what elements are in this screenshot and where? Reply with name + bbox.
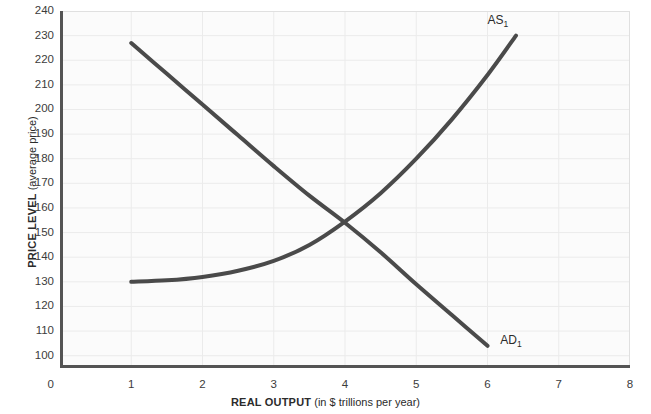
plot-area <box>60 11 630 368</box>
y-tick-label: 120 <box>14 299 54 311</box>
x-tick-label: 2 <box>183 378 223 390</box>
x-tick-label: 1 <box>111 378 151 390</box>
plot-svg <box>60 11 630 368</box>
curve-label-subscript: 1 <box>504 19 509 29</box>
y-axis-title-main: PRICE LEVEL <box>26 193 38 267</box>
y-tick-label: 220 <box>14 53 54 65</box>
origin-label: 0 <box>14 378 54 390</box>
as-ad-chart: 1001101201301401501601701801902002102202… <box>0 0 651 414</box>
x-tick-label: 8 <box>610 378 650 390</box>
curve-label-as1: AS1 <box>488 13 509 29</box>
y-tick-label: 240 <box>14 4 54 16</box>
x-axis-title-main: REAL OUTPUT <box>231 396 311 408</box>
x-tick-label: 6 <box>468 378 508 390</box>
y-axis-title: PRICE LEVEL (average price) <box>26 97 38 287</box>
x-tick-label: 7 <box>539 378 579 390</box>
x-tick-label: 5 <box>396 378 436 390</box>
y-axis-title-sub: (average price) <box>26 116 38 190</box>
curve-label-text: AD <box>500 333 517 347</box>
x-tick-label: 4 <box>325 378 365 390</box>
curve-label-ad1: AD1 <box>500 333 521 349</box>
y-tick-label: 100 <box>14 349 54 361</box>
curve-ad1 <box>131 43 487 346</box>
y-tick-label: 230 <box>14 29 54 41</box>
curve-label-subscript: 1 <box>517 339 522 349</box>
y-tick-label: 210 <box>14 78 54 90</box>
curve-label-text: AS <box>488 13 504 27</box>
y-tick-label: 110 <box>14 324 54 336</box>
x-axis-title: REAL OUTPUT (in $ trillions per year) <box>0 396 651 408</box>
x-tick-label: 3 <box>254 378 294 390</box>
x-axis-title-sub: (in $ trillions per year) <box>314 396 420 408</box>
